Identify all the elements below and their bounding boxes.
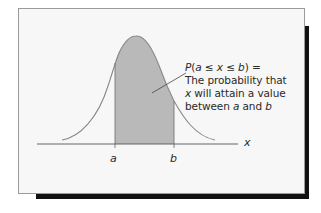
annotation-formula: P(a ≤ x ≤ b) = — [185, 61, 287, 74]
line3-b: b — [265, 100, 272, 112]
annotation-line-3: between a and b — [185, 100, 287, 113]
probability-annotation: P(a ≤ x ≤ b) = The probability that x wi… — [185, 61, 287, 113]
tick-label-b: b — [170, 152, 177, 165]
annotation-line-2: x will attain a value — [185, 87, 287, 100]
annotation-line-1: The probability that — [185, 74, 287, 87]
formula-le1: ≤ — [202, 61, 217, 73]
shaded-probability-area — [115, 36, 174, 144]
formula-b: b — [238, 61, 245, 73]
x-axis-label: x — [244, 136, 251, 149]
line3-pre: between — [185, 100, 233, 112]
formula-close: ) = — [245, 61, 261, 73]
tick-label-a: a — [110, 152, 117, 165]
line2-rest: will attain a value — [191, 87, 285, 99]
formula-le2: ≤ — [223, 61, 238, 73]
line3-mid: and — [239, 100, 265, 112]
